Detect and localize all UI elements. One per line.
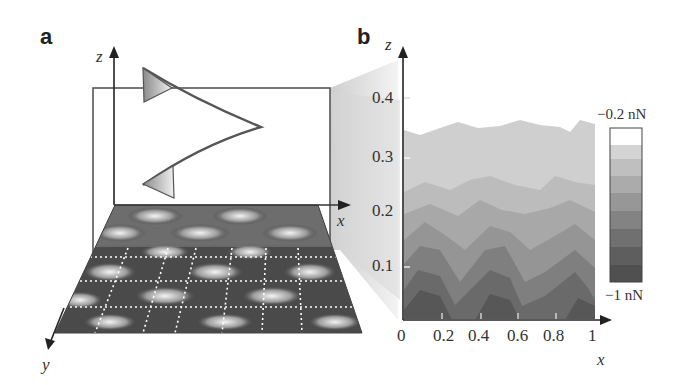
x-tick-0.6: 0.6 <box>507 326 528 346</box>
colorbar-max-label: −0.2 nN <box>597 106 646 123</box>
panel-b-z-label: z <box>385 35 392 55</box>
panel-b-x-label: x <box>597 350 605 370</box>
x-tick-1: 1 <box>588 326 597 346</box>
surface-map <box>50 200 370 340</box>
panel-a-y-label: y <box>42 355 50 375</box>
x-tick-0.2: 0.2 <box>433 326 454 346</box>
y-tick-0.3: 0.3 <box>372 147 393 167</box>
colorbar-min-label: −1 nN <box>605 287 643 304</box>
panel-a-z-label: z <box>96 47 103 67</box>
y-tick-0.4: 0.4 <box>372 88 393 108</box>
tip-bottom-icon <box>143 166 174 198</box>
panel-b-plot <box>404 100 595 320</box>
panel-a-x-label: x <box>337 211 345 231</box>
z-arrow-head <box>109 46 119 58</box>
colorbar <box>610 128 642 282</box>
figure: a b <box>0 0 680 385</box>
x-tick-0: 0 <box>397 326 406 346</box>
x-tick-0.8: 0.8 <box>543 326 564 346</box>
tip-top-icon <box>143 68 172 102</box>
y-tick-0.1: 0.1 <box>372 256 393 276</box>
panel-a <box>45 46 370 350</box>
x-tick-0.4: 0.4 <box>468 326 489 346</box>
y-tick-0.2: 0.2 <box>372 201 393 221</box>
